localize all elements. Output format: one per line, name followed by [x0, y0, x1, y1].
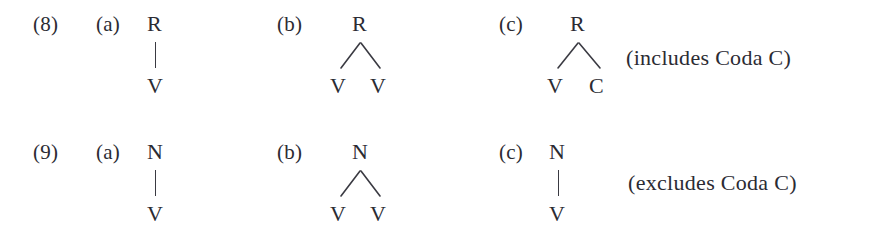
tree-branches-9b: [335, 168, 387, 200]
sub-label-8b: (b): [277, 14, 302, 35]
tree-node-root-9c: N: [549, 141, 565, 163]
tree-branches-8c: [551, 40, 607, 72]
annotation-excludes-coda: (excludes Coda C): [628, 172, 797, 194]
tree-node-child-9c-1: V: [549, 203, 565, 225]
tree-node-child-9b-1: V: [330, 203, 346, 225]
tree-edge-vertical-9c: [558, 170, 559, 196]
tree-branches-8b: [335, 40, 387, 72]
sub-label-8c: (c): [499, 14, 523, 35]
tree-node-root-8b: R: [352, 13, 367, 35]
example-row-8: (8) (a) R V (b) R V V (c) R V C (include…: [0, 0, 872, 124]
example-number-9: (9): [33, 142, 58, 163]
tree-node-root-9a: N: [147, 141, 163, 163]
tree-node-child-8c-1: V: [547, 75, 563, 97]
tree-node-child-9a-1: V: [147, 203, 163, 225]
sub-label-9c: (c): [499, 142, 523, 163]
tree-node-child-9b-2: V: [370, 203, 386, 225]
tree-node-child-8b-2: V: [370, 75, 386, 97]
sub-label-8a: (a): [96, 14, 120, 35]
tree-node-child-8c-2: C: [589, 75, 604, 97]
annotation-includes-coda: (includes Coda C): [626, 47, 791, 69]
sub-label-9b: (b): [277, 142, 302, 163]
tree-edge-vertical-8a: [155, 42, 156, 68]
tree-node-root-9b: N: [352, 141, 368, 163]
tree-node-child-8a-1: V: [147, 75, 163, 97]
tree-node-root-8a: R: [147, 13, 162, 35]
example-number-8: (8): [33, 14, 58, 35]
sub-label-9a: (a): [96, 142, 120, 163]
figure-canvas: { "figure": { "background_color": "#ffff…: [0, 0, 872, 247]
example-row-9: (9) (a) N V (b) N V V (c) N V (excludes …: [0, 123, 872, 247]
tree-node-child-8b-1: V: [330, 75, 346, 97]
tree-node-root-8c: R: [570, 13, 585, 35]
tree-edge-vertical-9a: [155, 170, 156, 196]
